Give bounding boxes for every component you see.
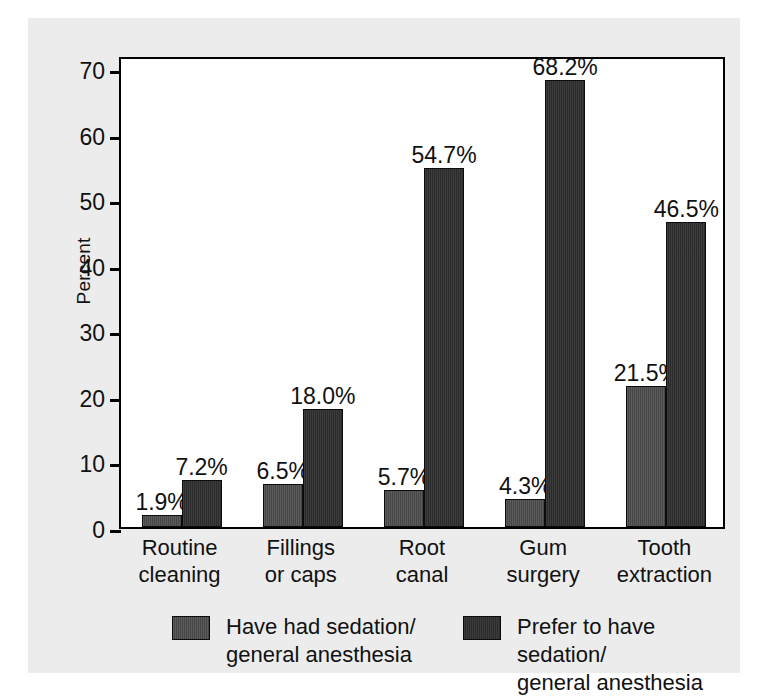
y-tick-mark	[110, 333, 121, 336]
y-tick-mark	[110, 530, 121, 533]
legend-swatch-icon	[172, 616, 210, 640]
bar-value-label: 18.0%	[268, 383, 378, 409]
bar	[505, 499, 545, 527]
figure-panel: Percent 010203040506070 1.9%7.2%6.5%18.0…	[28, 18, 740, 673]
legend-label: Have had sedation/ general anesthesia	[226, 613, 416, 669]
y-tick-label: 10	[79, 451, 105, 477]
bar-value-label: 46.5%	[631, 196, 741, 222]
y-tick-mark	[110, 399, 121, 402]
legend-item[interactable]: Have had sedation/ general anesthesia	[172, 613, 416, 669]
bar	[545, 80, 585, 527]
bar	[142, 515, 182, 527]
y-tick-mark	[110, 71, 121, 74]
x-axis-label-line: Tooth	[584, 534, 745, 561]
chart-legend: Have had sedation/ general anesthesiaPre…	[28, 613, 740, 673]
bar	[303, 409, 343, 527]
plot-area: 010203040506070 1.9%7.2%6.5%18.0%5.7%54.…	[119, 57, 725, 529]
bar-value-label: 68.2%	[510, 54, 620, 80]
y-tick-label: 50	[79, 189, 105, 215]
bar-value-label: 54.7%	[389, 142, 499, 168]
bar	[626, 386, 666, 527]
y-tick-label: 30	[79, 320, 105, 346]
y-tick-label: 40	[79, 255, 105, 281]
x-axis-label: Toothextraction	[584, 534, 745, 588]
bar	[182, 480, 222, 527]
y-tick-mark	[110, 202, 121, 205]
y-tick-label: 60	[79, 124, 105, 150]
y-tick-mark	[110, 137, 121, 140]
bar	[666, 222, 706, 527]
y-tick-label: 20	[79, 386, 105, 412]
bar	[384, 490, 424, 527]
bar	[263, 484, 303, 527]
y-tick-mark	[110, 268, 121, 271]
x-axis-label-line: extraction	[584, 561, 745, 588]
y-tick-label: 70	[79, 58, 105, 84]
legend-item[interactable]: Prefer to have sedation/ general anesthe…	[463, 613, 740, 697]
legend-swatch-icon	[463, 616, 501, 640]
y-tick-mark	[110, 464, 121, 467]
legend-label: Prefer to have sedation/ general anesthe…	[517, 613, 740, 697]
bar	[424, 168, 464, 527]
